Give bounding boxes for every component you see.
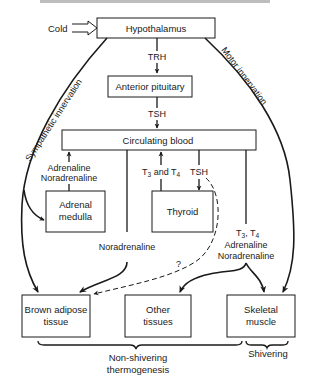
node-anterior-pituitary: Anterior pituitary bbox=[108, 76, 192, 97]
non-shivering-brace bbox=[38, 341, 242, 349]
trh-label: TRH bbox=[148, 52, 167, 62]
t3-t4-right-label: T3, T4 bbox=[236, 228, 259, 239]
adrenaline-label: Adrenaline bbox=[47, 163, 90, 173]
svg-text:Circulating blood: Circulating blood bbox=[123, 135, 194, 146]
node-thyroid: Thyroid bbox=[152, 191, 213, 232]
t3-t4-label: T3 and T4 bbox=[142, 167, 180, 178]
tsh-label: TSH bbox=[148, 109, 166, 119]
motor-innervation-label: Motor innervation bbox=[219, 45, 269, 107]
cold-arrow-icon bbox=[72, 21, 97, 35]
svg-text:Brown adipose: Brown adipose bbox=[25, 304, 88, 315]
hormones-to-other-tissues-arrow bbox=[180, 263, 246, 292]
node-skeletal-muscle: Skeletal muscle bbox=[227, 295, 295, 337]
node-adrenal-medulla: Adrenal medulla bbox=[46, 191, 105, 232]
cut-off-heading bbox=[40, 0, 270, 3]
hormones-to-muscle-arrow bbox=[246, 263, 264, 292]
svg-text:Hypothalamus: Hypothalamus bbox=[126, 23, 187, 34]
node-hypothalamus: Hypothalamus bbox=[97, 18, 215, 38]
svg-text:tissues: tissues bbox=[143, 316, 173, 327]
svg-text:tissue: tissue bbox=[44, 316, 69, 327]
non-shivering-label: Non-shivering bbox=[109, 352, 168, 363]
adrenaline-right-label: Adrenaline bbox=[224, 240, 267, 250]
svg-text:muscle: muscle bbox=[246, 316, 276, 327]
svg-text:Adrenal: Adrenal bbox=[59, 199, 92, 210]
thermogenesis-label: thermogenesis bbox=[107, 364, 170, 375]
svg-text:Other: Other bbox=[146, 304, 170, 315]
node-other-tissues: Other tissues bbox=[125, 295, 191, 337]
svg-text:medulla: medulla bbox=[59, 211, 93, 222]
node-brown-adipose-tissue: Brown adipose tissue bbox=[22, 295, 90, 337]
svg-text:Thyroid: Thyroid bbox=[167, 206, 199, 217]
shivering-brace bbox=[246, 341, 288, 348]
noradrenaline-label: Noradrenaline bbox=[41, 173, 98, 183]
sympathetic-to-adrenal-arrow bbox=[24, 190, 44, 220]
tsh-thyroid-label: TSH bbox=[190, 167, 208, 177]
node-circulating-blood: Circulating blood bbox=[62, 130, 256, 150]
svg-text:Anterior pituitary: Anterior pituitary bbox=[115, 81, 184, 92]
svg-text:Skeletal: Skeletal bbox=[244, 304, 278, 315]
noradrenaline-right-label: Noradrenaline bbox=[218, 251, 275, 261]
shivering-label: Shivering bbox=[248, 348, 288, 359]
cold-label: Cold bbox=[48, 23, 68, 34]
question-mark: ? bbox=[176, 259, 181, 269]
noradrenaline-to-bat-arrow bbox=[80, 262, 127, 292]
noradrenaline-label: Noradrenaline bbox=[99, 242, 156, 252]
thermogenesis-diagram: Cold Hypothalamus TRH Anterior pituitary… bbox=[0, 0, 310, 388]
